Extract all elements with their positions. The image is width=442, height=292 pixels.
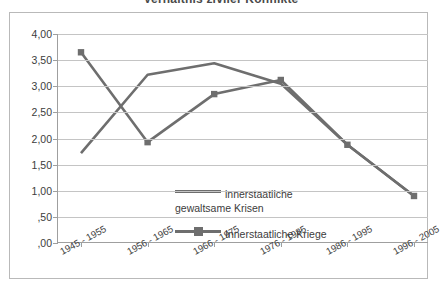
- y-axis-tick-label: ,00: [37, 237, 52, 249]
- legend-label-krisen-line2: gewaltsame Krisen: [175, 202, 355, 215]
- series-line-1: [81, 63, 414, 196]
- chart-frame: 4,003,503,002,502,001,501,00,50,00 inner…: [9, 12, 428, 279]
- chart-title-clipped: Verhältnis ziviler Konflikte: [0, 0, 442, 9]
- chart-legend: innerstaatliche gewaltsame Krisen Inners…: [175, 184, 355, 244]
- y-tick-mark: [53, 139, 58, 140]
- y-tick-mark: [53, 243, 58, 244]
- y-axis-labels: 4,003,503,002,502,001,501,00,50,00: [10, 34, 52, 243]
- gridline: [57, 191, 428, 192]
- series-marker: [211, 91, 217, 97]
- gridline: [57, 139, 428, 140]
- series-marker: [144, 139, 150, 145]
- y-tick-mark: [53, 60, 58, 61]
- gridline: [57, 34, 428, 35]
- series-marker: [411, 193, 417, 199]
- series-marker: [344, 142, 350, 148]
- x-axis-labels: 1945 - 19551956 - 19651966 - 19751976 - …: [57, 245, 428, 292]
- y-tick-mark: [53, 165, 58, 166]
- legend-item-kriege: Innerstaatliche Kriege: [175, 224, 355, 242]
- y-tick-mark: [53, 217, 58, 218]
- y-axis-tick-label: 3,00: [32, 80, 52, 92]
- series-marker: [78, 49, 84, 55]
- gridline: [57, 60, 428, 61]
- legend-swatch-line-square-icon: [175, 230, 221, 233]
- plot-area: innerstaatliche gewaltsame Krisen Inners…: [57, 34, 428, 243]
- y-tick-mark: [53, 112, 58, 113]
- y-axis-tick-label: 2,50: [32, 106, 52, 118]
- y-axis-tick-label: ,50: [37, 211, 52, 223]
- legend-square-marker-icon: [194, 227, 203, 236]
- y-axis-tick-label: 1,50: [32, 159, 52, 171]
- series-marker: [278, 77, 284, 83]
- chart-screenshot: Verhältnis ziviler Konflikte 4,003,503,0…: [0, 0, 442, 292]
- y-axis-tick-label: 4,00: [32, 28, 52, 40]
- y-tick-mark: [53, 34, 58, 35]
- gridline: [57, 217, 428, 218]
- y-axis-tick-label: 3,50: [32, 54, 52, 66]
- legend-item-krisen: innerstaatliche gewaltsame Krisen: [175, 184, 355, 215]
- page-title: Verhältnis ziviler Konflikte: [0, 0, 442, 6]
- y-tick-mark: [53, 191, 58, 192]
- y-axis-tick-label: 2,00: [32, 133, 52, 145]
- gridline: [57, 86, 428, 87]
- gridline: [57, 165, 428, 166]
- gridline: [57, 112, 428, 113]
- y-tick-mark: [53, 86, 58, 87]
- y-axis-tick-label: 1,00: [32, 185, 52, 197]
